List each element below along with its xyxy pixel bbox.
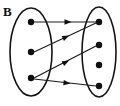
arrowhead-icon-e4 — [63, 80, 71, 86]
arrowhead-icon-e2 — [62, 33, 71, 41]
node-dot-r1 — [96, 19, 102, 25]
figure-canvas: B — [0, 0, 120, 106]
node-dot-l2 — [28, 49, 34, 55]
node-dot-l3 — [28, 75, 34, 81]
left-node-layer — [28, 19, 34, 81]
set-mapping-diagram: B — [0, 0, 120, 106]
node-dot-r2 — [96, 42, 102, 48]
node-dot-r4 — [96, 83, 102, 89]
arrowhead-icon-e1 — [65, 19, 72, 24]
edge-layer — [34, 19, 96, 86]
node-dot-l1 — [28, 19, 34, 25]
arrowhead-icon-e3 — [62, 58, 71, 66]
set-label-b: B — [3, 4, 12, 19]
node-dot-r3 — [96, 62, 102, 68]
right-node-layer — [96, 19, 102, 89]
